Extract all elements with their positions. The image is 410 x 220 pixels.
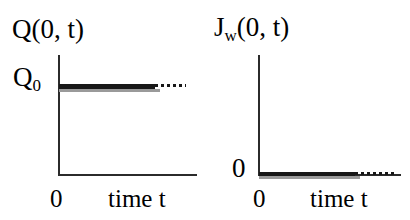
y-axis-line-right — [258, 55, 260, 176]
x-axis-origin-label-right: 0 — [253, 186, 266, 211]
curve-solid-jw — [259, 172, 355, 176]
panel-jw-vs-time: Jw(0, t) 0 0 time t — [205, 0, 410, 220]
panel-title-jw-rest: (0, t) — [237, 12, 289, 42]
curve-dotted-q — [155, 84, 186, 87]
x-axis-line-left — [58, 174, 197, 176]
panel-title-jw-base: J — [214, 12, 225, 42]
panel-title-q-rest: (0, t) — [32, 14, 84, 44]
curve-shadow-right — [259, 176, 360, 179]
panel-title-q-base: Q — [12, 14, 32, 44]
y-axis-label-zero-right: 0 — [232, 155, 246, 182]
curve-shadow-left — [59, 89, 160, 92]
y-axis-label-q0-base: Q — [13, 62, 33, 92]
x-axis-label-right: time t — [310, 186, 368, 211]
panel-title-jw-subscript: w — [225, 26, 237, 45]
panel-q-vs-time: Q(0, t) Q0 0 time t — [0, 0, 205, 220]
y-axis-line-left — [58, 55, 60, 176]
curve-solid-q — [59, 84, 155, 89]
y-axis-label-q0: Q0 — [13, 64, 41, 91]
x-axis-origin-label-left: 0 — [50, 186, 63, 211]
panel-title-jw: Jw(0, t) — [214, 14, 289, 41]
x-axis-label-left: time t — [108, 186, 166, 211]
panel-title-q: Q(0, t) — [12, 16, 84, 43]
two-panel-figure: Q(0, t) Q0 0 time t Jw(0, t) 0 0 time t — [0, 0, 410, 220]
curve-dotted-jw — [355, 172, 395, 175]
y-axis-label-q0-subscript: 0 — [33, 76, 42, 95]
